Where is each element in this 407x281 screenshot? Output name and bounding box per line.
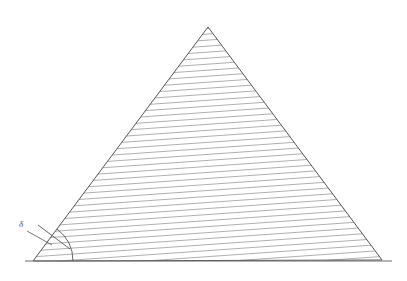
triangle-diagram: δ: [0, 0, 407, 281]
figure-canvas: δ: [0, 0, 407, 281]
